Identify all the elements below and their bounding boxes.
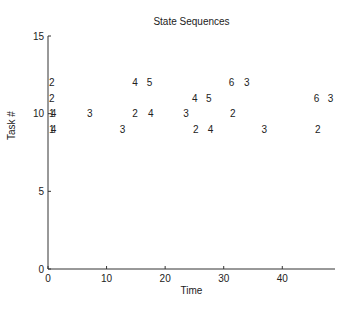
state-label: 4 [148, 108, 154, 119]
state-label: 4 [192, 93, 198, 104]
state-label: 2 [315, 124, 321, 135]
x-tick-label: 40 [277, 273, 289, 284]
state-label: 3 [262, 124, 268, 135]
state-label: 6 [314, 93, 320, 104]
axes: 010203040051015 [33, 31, 335, 285]
state-label: 3 [328, 93, 334, 104]
x-tick-label: 30 [218, 273, 230, 284]
state-label: 2 [49, 77, 55, 88]
state-label: 5 [147, 77, 153, 88]
state-label: 2 [230, 108, 236, 119]
state-label: 4 [51, 108, 57, 119]
y-tick-label: 0 [38, 264, 44, 275]
state-label: 4 [132, 77, 138, 88]
x-tick-label: 20 [160, 273, 172, 284]
state-label: 3 [87, 108, 93, 119]
data-labels: 245632456314324321432432 [49, 77, 334, 135]
y-tick-label: 5 [38, 186, 44, 197]
state-label: 2 [49, 93, 55, 104]
state-label: 5 [206, 93, 212, 104]
state-label: 2 [132, 108, 138, 119]
scatter-plot: 010203040051015 245632456314324321432432 [0, 0, 353, 311]
y-tick-label: 15 [33, 31, 45, 42]
state-label: 4 [51, 124, 57, 135]
x-tick-label: 10 [101, 273, 113, 284]
state-label: 2 [193, 124, 199, 135]
state-label: 4 [208, 124, 214, 135]
x-tick-label: 0 [45, 273, 51, 284]
state-label: 3 [244, 77, 250, 88]
state-label: 6 [229, 77, 235, 88]
y-tick-label: 10 [33, 108, 45, 119]
state-label: 3 [183, 108, 189, 119]
state-label: 3 [120, 124, 126, 135]
